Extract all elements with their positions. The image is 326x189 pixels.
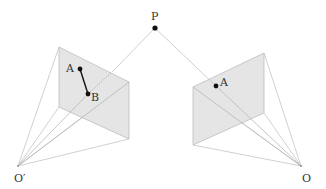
point-a-left bbox=[78, 67, 83, 72]
label-p: P bbox=[151, 10, 159, 23]
point-a-right bbox=[214, 84, 219, 89]
label-a-left: A bbox=[65, 62, 75, 75]
label-b-left: B bbox=[91, 91, 99, 104]
point-o-prime bbox=[17, 165, 19, 167]
epipolar-diagram: P A B A O′ O bbox=[0, 0, 326, 189]
point-b-left bbox=[86, 92, 91, 97]
label-o-prime: O′ bbox=[14, 172, 26, 185]
ray-to-p-right bbox=[155, 28, 216, 86]
label-o: O bbox=[302, 172, 311, 185]
label-a-right: A bbox=[219, 76, 229, 89]
ray-to-p-left bbox=[112, 28, 155, 72]
point-o bbox=[300, 165, 302, 167]
point-p bbox=[152, 25, 157, 30]
